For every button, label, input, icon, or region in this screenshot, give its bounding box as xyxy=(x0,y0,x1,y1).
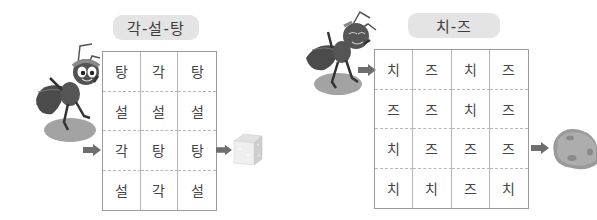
puzzle-1-title: 각-설-탕 xyxy=(113,15,199,40)
start-arrow-icon xyxy=(83,144,101,156)
grid-cell[interactable]: 즈 xyxy=(490,90,528,130)
grid-cell[interactable]: 즈 xyxy=(413,129,451,169)
grid-cell[interactable]: 치 xyxy=(413,169,451,209)
puzzle-2-title: 치-즈 xyxy=(408,13,500,38)
grid-cell[interactable]: 즈 xyxy=(452,169,490,209)
grid-cell[interactable]: 치 xyxy=(490,169,528,209)
grid-cell[interactable]: 설 xyxy=(103,171,141,211)
grid-cell[interactable]: 즈 xyxy=(452,129,490,169)
grid-cell[interactable]: 각 xyxy=(141,52,179,92)
grid-cell[interactable]: 치 xyxy=(452,90,490,130)
ant-with-headband-icon xyxy=(30,42,102,147)
grid-cell[interactable]: 치 xyxy=(375,129,413,169)
ant-icon xyxy=(302,6,382,98)
letter-grid-1: 탕 각 탕 설 설 설 각 탕 탕 설 각 설 xyxy=(102,51,217,211)
grid-cell[interactable]: 각 xyxy=(141,171,179,211)
grid-cell[interactable]: 탕 xyxy=(141,131,179,171)
end-arrow-icon xyxy=(531,142,549,154)
grid-cell[interactable]: 즈 xyxy=(413,50,451,90)
grid-cell[interactable]: 각 xyxy=(103,131,141,171)
grid-cell[interactable]: 탕 xyxy=(178,131,216,171)
sugar-cube-icon xyxy=(230,131,264,167)
grid-cell[interactable]: 설 xyxy=(141,92,179,132)
grid-cell[interactable]: 탕 xyxy=(178,52,216,92)
grid-cell[interactable]: 즈 xyxy=(490,129,528,169)
grid-cell[interactable]: 즈 xyxy=(413,90,451,130)
grid-cell[interactable]: 설 xyxy=(178,92,216,132)
grid-cell[interactable]: 탕 xyxy=(103,52,141,92)
grid-cell[interactable]: 치 xyxy=(375,169,413,209)
grid-cell[interactable]: 치 xyxy=(375,50,413,90)
grid-cell[interactable]: 즈 xyxy=(490,50,528,90)
grid-cell[interactable]: 치 xyxy=(452,50,490,90)
grid-cell[interactable]: 설 xyxy=(178,171,216,211)
grid-cell[interactable]: 즈 xyxy=(375,90,413,130)
grid-cell[interactable]: 설 xyxy=(103,92,141,132)
letter-grid-2: 치 즈 치 즈 즈 즈 치 즈 치 즈 즈 즈 치 치 즈 치 xyxy=(374,49,529,209)
cheese-icon xyxy=(550,124,597,174)
